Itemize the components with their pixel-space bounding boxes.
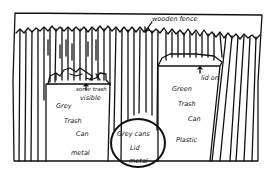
label-lid-on: lid on bbox=[201, 74, 219, 82]
label-grey-can-3: Can bbox=[76, 130, 89, 138]
label-grey-can-material: metal bbox=[71, 149, 90, 157]
label-lid-2: Lid bbox=[130, 144, 140, 152]
label-some-trash: some trash bbox=[76, 86, 107, 92]
label-lid-1: Grey cans bbox=[117, 130, 150, 138]
label-lid-3: metal bbox=[129, 157, 148, 165]
arrow-fence bbox=[145, 22, 152, 32]
trash-pile bbox=[48, 68, 110, 84]
label-green-can-material: Plastic bbox=[176, 136, 197, 144]
label-green-can-3: Can bbox=[188, 115, 201, 123]
fence-top-edge bbox=[16, 26, 260, 39]
label-wooden-fence: wooden fence bbox=[152, 15, 198, 23]
label-green-can-2: Trash bbox=[178, 100, 196, 108]
label-green-can-1: Green bbox=[172, 85, 192, 93]
label-grey-can-2: Trash bbox=[64, 117, 82, 125]
label-visible: visible bbox=[80, 94, 101, 102]
arrow-lid bbox=[198, 67, 202, 73]
label-grey-can-1: Grey bbox=[56, 102, 72, 110]
